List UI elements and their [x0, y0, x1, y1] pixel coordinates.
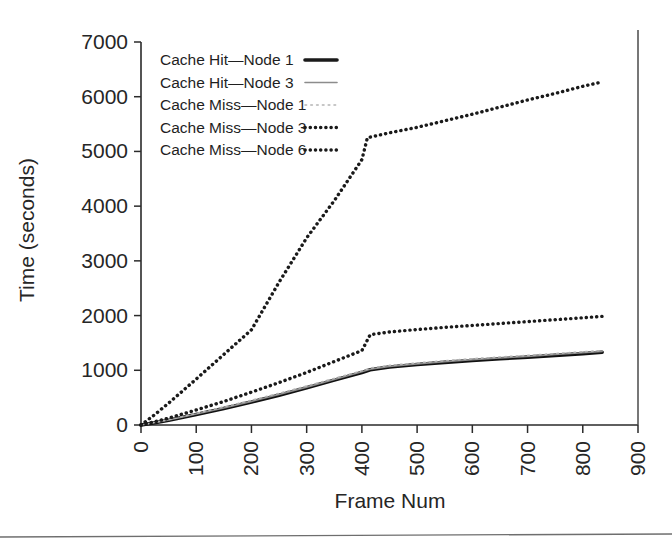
legend-label-2: Cache Miss—Node 1 [160, 96, 306, 113]
x-tick-label-500: 500 [405, 441, 428, 476]
series-line-1 [141, 351, 602, 425]
y-tick-label-2000: 2000 [81, 304, 128, 327]
y-tick-label-1000: 1000 [81, 358, 128, 381]
x-tick-label-800: 800 [571, 441, 594, 476]
footer-rule [0, 534, 672, 537]
chart-figure: 0100020003000400050006000700001002003004… [0, 0, 672, 550]
legend-label-4: Cache Miss—Node 6 [160, 141, 306, 158]
series-line-2 [141, 350, 602, 425]
y-tick-label-4000: 4000 [81, 194, 128, 217]
y-axis-title: Time (seconds) [15, 158, 38, 302]
x-tick-label-0: 0 [129, 441, 152, 453]
line-chart: 0100020003000400050006000700001002003004… [0, 0, 672, 550]
y-tick-label-7000: 7000 [81, 30, 128, 53]
series-line-0 [141, 352, 602, 425]
y-tick-label-3000: 3000 [81, 249, 128, 272]
legend-label-3: Cache Miss—Node 3 [160, 119, 306, 136]
y-tick-label-6000: 6000 [81, 85, 128, 108]
y-tick-label-0: 0 [116, 413, 128, 436]
x-tick-label-200: 200 [239, 441, 262, 476]
y-tick-label-5000: 5000 [81, 139, 128, 162]
legend-label-0: Cache Hit—Node 1 [160, 51, 294, 68]
x-tick-label-900: 900 [626, 441, 649, 476]
x-tick-label-100: 100 [184, 441, 207, 476]
x-tick-label-300: 300 [295, 441, 318, 476]
x-tick-label-400: 400 [350, 441, 373, 476]
x-axis-title: Frame Num [335, 489, 446, 512]
legend-label-1: Cache Hit—Node 3 [160, 74, 294, 91]
x-tick-label-700: 700 [516, 441, 539, 476]
x-tick-label-600: 600 [460, 441, 483, 476]
